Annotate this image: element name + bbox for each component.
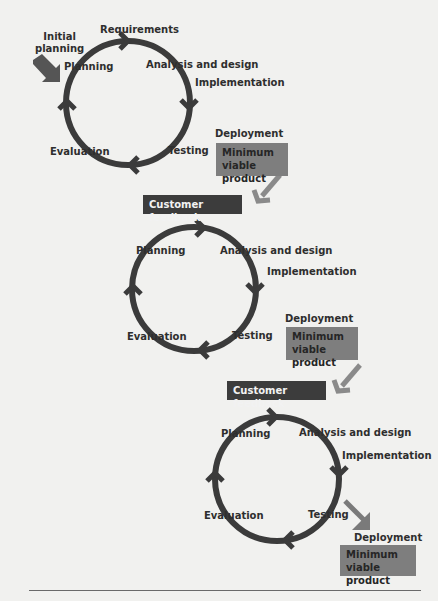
customer-feedback-box: Customer feedback bbox=[143, 195, 242, 214]
bottom-divider bbox=[29, 590, 421, 591]
stage-evaluation: Evaluation bbox=[50, 146, 110, 158]
requirements-label: Requirements bbox=[100, 24, 179, 36]
mvp-box: Minimumviable product bbox=[216, 143, 288, 176]
stage-implementation: Implementation bbox=[267, 266, 357, 278]
customer-feedback-box: Customer feedback bbox=[227, 381, 326, 400]
deployment-label: Deployment bbox=[215, 128, 283, 140]
stage-analysis-design: Analysis and design bbox=[220, 245, 332, 257]
stage-testing: Testing bbox=[168, 145, 209, 157]
stage-planning: Planning bbox=[64, 61, 113, 73]
stage-testing: Testing bbox=[308, 509, 349, 521]
deployment-label: Deployment bbox=[354, 532, 422, 544]
stage-implementation: Implementation bbox=[342, 450, 432, 462]
mvp-box: Minimumviable product bbox=[340, 545, 416, 576]
initial-arrow bbox=[33, 54, 60, 82]
stage-implementation: Implementation bbox=[195, 77, 285, 89]
stage-evaluation: Evaluation bbox=[204, 510, 264, 522]
stage-testing: Testing bbox=[232, 330, 273, 342]
stage-evaluation: Evaluation bbox=[127, 331, 187, 343]
deployment-label: Deployment bbox=[285, 313, 353, 325]
stage-analysis-design: Analysis and design bbox=[299, 427, 411, 439]
mvp-box: Minimumviable product bbox=[286, 327, 358, 360]
stage-planning: Planning bbox=[136, 245, 185, 257]
stage-planning: Planning bbox=[221, 428, 270, 440]
deployment-arrow-2 bbox=[342, 365, 360, 386]
initial-planning-label: Initialplanning bbox=[35, 31, 84, 55]
stage-analysis-design: Analysis and design bbox=[146, 59, 258, 71]
